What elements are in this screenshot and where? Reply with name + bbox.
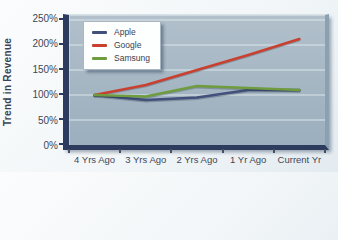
x-tick-mark: [222, 149, 224, 153]
x-tick-mark: [68, 149, 70, 153]
legend: Apple Google Samsung: [83, 21, 161, 70]
legend-label: Samsung: [114, 53, 150, 63]
legend-swatch-google: [92, 44, 107, 47]
x-tick-label: Current Yr: [274, 154, 325, 165]
x-axis-labels: 4 Yrs Ago 3 Yrs Ago 2 Yrs Ago 1 Yr Ago C…: [69, 154, 325, 165]
plot-area: Apple Google Samsung: [63, 14, 329, 150]
y-axis-tick-labels: 250% 200% 150% 100% 50% 0%: [12, 13, 58, 151]
x-tick-mark: [119, 149, 121, 153]
x-tick-label: 2 Yrs Ago: [171, 154, 222, 165]
legend-item-samsung: Samsung: [92, 53, 150, 63]
legend-label: Apple: [114, 27, 136, 37]
y-tick-mark: [59, 93, 64, 95]
y-tick-mark: [59, 118, 64, 120]
x-tick-mark: [324, 149, 326, 153]
x-tick-mark: [273, 149, 275, 153]
y-tick-label: 100%: [32, 89, 58, 100]
x-tick-label: 1 Yr Ago: [223, 154, 274, 165]
legend-item-google: Google: [92, 40, 150, 50]
y-tick-mark: [59, 143, 64, 145]
revenue-trend-chart: Trend in Revenue 250% 200% 150% 100% 50%…: [0, 0, 338, 172]
x-tick-label: 3 Yrs Ago: [120, 154, 171, 165]
x-tick-mark: [170, 149, 172, 153]
legend-item-apple: Apple: [92, 27, 150, 37]
legend-swatch-apple: [92, 31, 107, 34]
legend-swatch-samsung: [92, 57, 107, 60]
y-tick-label: 0%: [44, 140, 58, 151]
x-tick-label: 4 Yrs Ago: [69, 154, 120, 165]
y-tick-label: 250%: [32, 13, 58, 24]
y-tick-label: 150%: [32, 64, 58, 75]
y-tick-label: 50%: [38, 115, 58, 126]
y-tick-mark: [59, 68, 64, 70]
y-tick-mark: [59, 43, 64, 45]
y-tick-mark: [59, 18, 64, 20]
y-tick-label: 200%: [32, 38, 58, 49]
legend-label: Google: [114, 40, 141, 50]
